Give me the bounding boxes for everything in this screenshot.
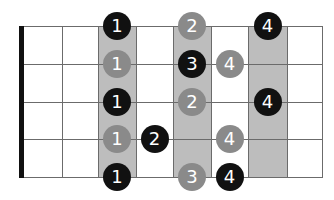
finger-dot: 1: [103, 88, 131, 116]
string-line: [20, 64, 323, 65]
string-line: [20, 139, 323, 140]
finger-dot: 4: [254, 88, 282, 116]
fret-line: [62, 26, 63, 178]
finger-dot: 1: [103, 163, 131, 191]
fret-line: [248, 26, 249, 178]
finger-dot: 3: [178, 50, 206, 78]
fret-line: [98, 26, 99, 178]
finger-dot: 1: [103, 12, 131, 40]
fretboard-diagram: 124134124124134: [0, 0, 334, 200]
finger-dot: 2: [141, 125, 169, 153]
string-line: [20, 177, 323, 178]
fret-line: [136, 26, 137, 178]
fret-line: [287, 26, 288, 178]
finger-dot: 1: [103, 50, 131, 78]
finger-dot: 4: [216, 163, 244, 191]
finger-dot: 1: [103, 125, 131, 153]
finger-dot: 3: [178, 163, 206, 191]
finger-dot: 4: [216, 125, 244, 153]
fret-line: [211, 26, 212, 178]
fret-line: [173, 26, 174, 178]
finger-dot: 2: [178, 12, 206, 40]
fret-line: [322, 26, 323, 178]
finger-dot: 4: [254, 12, 282, 40]
finger-dot: 2: [178, 88, 206, 116]
finger-dot: 4: [216, 50, 244, 78]
nut: [19, 26, 24, 178]
